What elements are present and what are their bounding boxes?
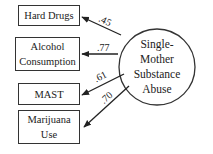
latent-label-line: Mother — [140, 52, 174, 67]
indicator-alcohol-consumption: Alcohol Consumption — [15, 37, 80, 71]
indicator-label: Hard Drugs — [24, 8, 73, 23]
latent-label-line: Abuse — [142, 82, 171, 97]
indicator-hard-drugs: Hard Drugs — [18, 5, 80, 26]
indicator-label-line: Use — [41, 127, 57, 142]
latent-variable: Single- Mother Substance Abuse — [119, 29, 195, 105]
latent-label-line: Single- — [140, 37, 173, 52]
indicator-marijuana-use: Marijuana Use — [18, 110, 80, 144]
loading-alcohol: .77 — [97, 42, 110, 53]
indicator-label-line: Consumption — [19, 54, 76, 69]
indicator-label-line: Marijuana — [27, 112, 70, 127]
indicator-mast: MAST — [18, 83, 80, 105]
indicator-label-line: Alcohol — [31, 39, 65, 54]
latent-label-line: Substance — [134, 67, 181, 82]
indicator-label: MAST — [34, 87, 63, 102]
